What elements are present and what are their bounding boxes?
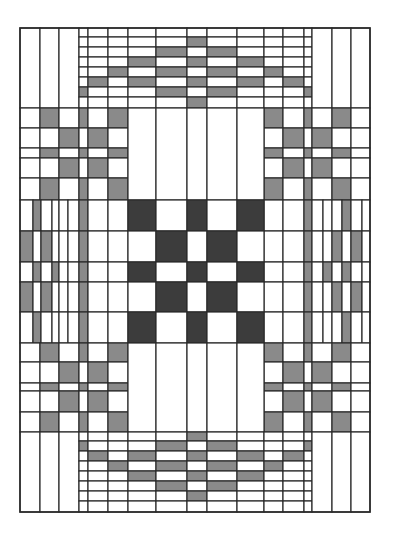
top-band-cell	[88, 77, 108, 87]
upper-block-left-cell	[79, 148, 88, 158]
middle-band-left-cell	[59, 231, 68, 262]
middle-band-left-cell	[52, 282, 59, 312]
middle-band-right-cell	[332, 282, 342, 312]
middle-band-right-cell	[283, 231, 304, 262]
top-band-cell	[283, 97, 304, 108]
bottom-band-cell	[156, 441, 187, 451]
middle-band-right-cell	[332, 312, 342, 343]
middle-band-center-cell	[128, 312, 156, 343]
upper-block-center-cell	[207, 108, 237, 200]
top-band-cell	[79, 57, 88, 67]
bottom-band-cell	[264, 451, 283, 461]
lower-block-center-cell	[237, 343, 264, 432]
bottom-band-cell	[283, 432, 304, 441]
bottom-band-cell	[108, 491, 128, 501]
upper-block-right-cell	[351, 178, 370, 200]
upper-block-left-cell	[79, 178, 88, 200]
lower-block-right-cell	[332, 343, 351, 362]
lower-block-center-cell	[207, 343, 237, 432]
top-band-cell	[88, 37, 108, 47]
middle-band-right-cell	[283, 262, 304, 282]
top-band-cell	[156, 67, 187, 77]
lower-block-left-cell	[40, 383, 59, 391]
bottom-band-cell	[332, 432, 351, 512]
bottom-band-cell	[79, 461, 88, 471]
lower-block-right-cell	[283, 383, 304, 391]
middle-band-left-cell	[33, 312, 41, 343]
top-band-cell	[79, 37, 88, 47]
middle-band-center-cell	[128, 231, 156, 262]
upper-block-left-cell	[59, 128, 79, 148]
lower-block-left-cell	[79, 412, 88, 432]
top-band-cell	[128, 97, 156, 108]
lower-block-right-cell	[283, 343, 304, 362]
upper-block-center-cell	[237, 108, 264, 200]
middle-band-center-cell	[156, 231, 187, 262]
middle-band-right-cell	[332, 231, 342, 262]
lower-block-left-cell	[59, 391, 79, 412]
middle-band-center-cell	[187, 231, 207, 262]
bottom-band-cell	[207, 501, 237, 512]
middle-band-left-cell	[79, 200, 88, 231]
top-band-cell	[351, 28, 370, 108]
middle-band-left-cell	[41, 200, 52, 231]
top-band-cell	[128, 28, 156, 37]
upper-block-center-cell	[128, 108, 156, 200]
bottom-band-cell	[20, 432, 40, 512]
top-band-cell	[264, 87, 283, 97]
top-band-cell	[207, 47, 237, 57]
middle-band-center-cell	[207, 231, 237, 262]
middle-band-left-cell	[20, 231, 33, 262]
top-band-cell	[40, 28, 59, 108]
top-band-cell	[156, 87, 187, 97]
top-band-cell	[237, 87, 264, 97]
lower-block-left-cell	[108, 362, 128, 383]
lower-block-left-cell	[79, 362, 88, 383]
bottom-band-cell	[264, 481, 283, 491]
top-band-cell	[156, 97, 187, 108]
upper-block-right-cell	[351, 148, 370, 158]
top-band-cell	[237, 47, 264, 57]
bottom-band-cell	[79, 481, 88, 491]
upper-block-left-cell	[88, 148, 108, 158]
top-band-cell	[207, 77, 237, 87]
middle-band-left-cell	[41, 231, 52, 262]
upper-block-left-cell	[108, 128, 128, 148]
top-band-cell	[304, 67, 312, 77]
lower-block-left-cell	[108, 391, 128, 412]
upper-block-left-cell	[40, 178, 59, 200]
upper-block-right-cell	[283, 108, 304, 128]
upper-block-right-cell	[283, 148, 304, 158]
middle-band-left-cell	[20, 262, 33, 282]
upper-block-right-cell	[351, 108, 370, 128]
middle-band-right-cell	[283, 200, 304, 231]
bottom-band-cell	[187, 432, 207, 441]
top-band-cell	[156, 57, 187, 67]
bottom-band-cell	[128, 481, 156, 491]
upper-block-right-cell	[332, 128, 351, 148]
bottom-band-cell	[187, 481, 207, 491]
bottom-band-cell	[283, 471, 304, 481]
middle-band-left-cell	[52, 231, 59, 262]
lower-block-right-cell	[351, 391, 370, 412]
lower-block-right-cell	[351, 412, 370, 432]
lower-block-right-cell	[304, 383, 312, 391]
top-band-cell	[128, 87, 156, 97]
top-band-cell	[88, 87, 108, 97]
bottom-band-cell	[187, 441, 207, 451]
middle-band-right-cell	[283, 312, 304, 343]
upper-block-right-cell	[264, 108, 283, 128]
lower-block-right-cell	[332, 412, 351, 432]
middle-band-center-cell	[187, 282, 207, 312]
lower-block-left-cell	[40, 343, 59, 362]
bottom-band-cell	[108, 461, 128, 471]
upper-block-left-cell	[79, 158, 88, 178]
bottom-band-cell	[304, 461, 312, 471]
upper-block-right-cell	[304, 148, 312, 158]
bottom-band-cell	[59, 432, 79, 512]
middle-band-left-cell	[88, 262, 108, 282]
top-band-cell	[304, 47, 312, 57]
bottom-band-cell	[40, 432, 59, 512]
upper-block-right-cell	[332, 178, 351, 200]
middle-band-right-cell	[264, 312, 283, 343]
